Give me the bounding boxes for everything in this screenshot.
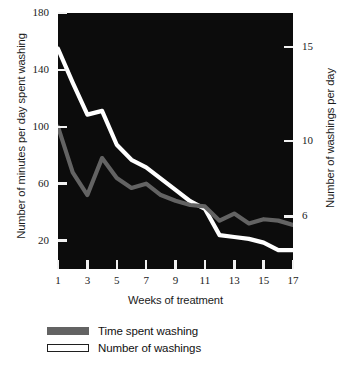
y-axis-left-ticklabel: 100 xyxy=(9,120,58,132)
x-axis-title: Weeks of treatment xyxy=(58,294,293,306)
y-axis-left-tickmark xyxy=(58,69,67,72)
y-axis-left-ticklabel: 180 xyxy=(9,6,58,18)
x-axis-tickmark xyxy=(204,260,207,269)
legend-swatch-solid-gray xyxy=(47,327,89,335)
y-axis-right-tickmark xyxy=(284,46,293,49)
y-axis-left-ticklabel: 140 xyxy=(9,63,58,75)
x-axis-tickmark xyxy=(86,260,89,269)
x-axis-ticklabel: 17 xyxy=(281,274,305,286)
x-axis-tickmark xyxy=(116,260,119,269)
y-axis-right-tickmark xyxy=(284,140,293,143)
legend-label-number-of-washings: Number of washings xyxy=(98,342,201,354)
y-axis-right-ticklabel: 15 xyxy=(293,40,341,52)
legend-swatch-hollow-white xyxy=(47,344,89,352)
x-axis-tickmark xyxy=(174,260,177,269)
x-axis-tickmark xyxy=(262,260,265,269)
y-axis-right-ticklabel: 6 xyxy=(293,209,341,221)
y-axis-right-ticklabel: 10 xyxy=(293,134,341,146)
line-time-spent-washing xyxy=(58,127,293,225)
x-axis-tickmark xyxy=(145,260,148,269)
legend-label-time-spent-washing: Time spent washing xyxy=(98,325,198,337)
y-axis-right-tickmark xyxy=(284,215,293,218)
legend-item-time-spent-washing: Time spent washing xyxy=(47,322,297,339)
y-axis-left-tickmark xyxy=(58,12,67,15)
x-axis-ticklabel: 11 xyxy=(193,274,217,286)
x-axis-ticklabel: 13 xyxy=(222,274,246,286)
y-axis-left-tickmark xyxy=(58,239,67,242)
x-axis-ticklabel: 7 xyxy=(134,274,158,286)
y-axis-left-ticklabel: 20 xyxy=(9,234,58,246)
chart-legend: Time spent washing Number of washings xyxy=(47,322,297,356)
x-axis-tickmark xyxy=(292,260,295,269)
x-axis-ticklabel: 15 xyxy=(252,274,276,286)
y-axis-left-tickmark xyxy=(58,126,67,129)
x-axis-ticklabel: 5 xyxy=(105,274,129,286)
x-axis-ticklabel: 3 xyxy=(75,274,99,286)
x-axis-ticklabel: 1 xyxy=(46,274,70,286)
x-axis-tickmark xyxy=(57,260,60,269)
x-axis-tickmark xyxy=(233,260,236,269)
y-axis-left-tickmark xyxy=(58,182,67,185)
y-axis-left-title: Number of minutes per day spent washing xyxy=(15,11,27,261)
y-axis-left-ticklabel: 60 xyxy=(9,177,58,189)
x-axis-ticklabel: 9 xyxy=(164,274,188,286)
plot-lines xyxy=(58,13,293,269)
legend-item-number-of-washings: Number of washings xyxy=(47,339,297,356)
plot-area: 2060100140180 61015 xyxy=(58,13,293,269)
